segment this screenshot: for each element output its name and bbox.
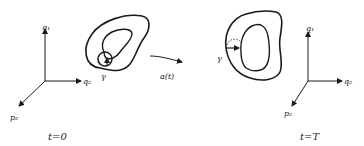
right-outer-boundary [226,11,282,80]
right-p2-axis [292,81,308,106]
right-axes: q₁ q₂ p₂ [284,24,352,118]
flow-label: a(t) [160,72,174,81]
right-region: γ [217,11,282,80]
right-q1-label: q₁ [306,24,314,33]
right-q2-label: q₂ [344,77,352,86]
right-time-label: t=T [300,131,320,142]
right-gamma-label: γ [217,54,222,63]
left-q1-label: q₁ [42,23,50,32]
left-inner-boundary [102,29,132,59]
left-axes: q₁ q₂ p₂ [10,23,91,122]
left-region: γ [86,15,149,81]
flow-map: a(t) [150,56,182,81]
left-outer-boundary [86,15,149,70]
phase-flow-diagram: q₁ q₂ p₂ γ a(t) γ q₁ q₂ p₂ t=0 t=T [0,0,364,146]
left-gamma-label: γ [101,72,106,81]
left-q2-label: q₂ [83,77,91,86]
left-time-label: t=0 [48,131,67,142]
left-p2-axis [19,81,45,106]
flow-arrow-icon [150,56,182,62]
left-p2-label: p₂ [10,113,18,122]
right-p2-label: p₂ [284,109,292,118]
right-inner-boundary [241,24,269,70]
right-cycle-dashed [227,39,241,45]
